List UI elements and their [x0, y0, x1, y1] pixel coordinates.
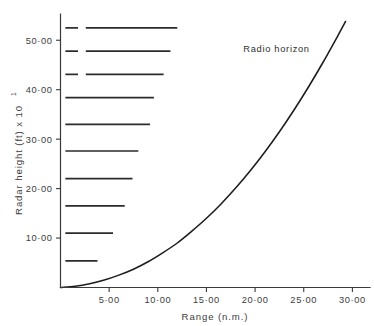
x-axis-title: Range (n.m.) — [182, 311, 249, 322]
height-lines-group — [65, 28, 177, 261]
y-tick-label-1: 20·00 — [26, 184, 53, 194]
y-axis-title-group: Radar height (ft) x 10 1 — [10, 92, 24, 215]
radio-horizon-curve — [61, 21, 346, 287]
x-tick-label-2: 15·00 — [193, 295, 220, 305]
y-axis-title-exponent: 1 — [10, 92, 17, 96]
y-tick-label-2: 30·00 — [26, 135, 53, 145]
y-tick-label-3: 40·00 — [26, 85, 53, 95]
y-axis-title: Radar height (ft) x 10 — [13, 105, 24, 215]
y-tick-label-0: 10·00 — [26, 233, 53, 243]
radio-horizon-curve-group — [61, 21, 346, 287]
y-tick-label-4: 50·00 — [26, 36, 53, 46]
axes-group — [56, 14, 370, 292]
x-tick-label-0: 5·00 — [99, 295, 120, 305]
x-tick-label-3: 20·00 — [242, 295, 269, 305]
chart-canvas: 5·0010·0015·0020·0025·0030·0010·0020·003… — [0, 0, 374, 326]
x-tick-label-5: 30·00 — [339, 295, 366, 305]
radio-horizon-annotation: Radio horizon — [243, 44, 309, 54]
radar-height-range-chart: 5·0010·0015·0020·0025·0030·0010·0020·003… — [0, 0, 374, 326]
x-tick-label-1: 10·00 — [144, 295, 171, 305]
x-tick-label-4: 25·00 — [290, 295, 317, 305]
